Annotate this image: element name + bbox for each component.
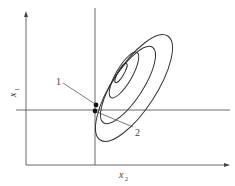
y-axis-label-sub: 1 <box>14 88 20 91</box>
contour-inner <box>104 48 144 101</box>
x-axis-label-main: x <box>118 169 124 180</box>
contour-ellipses <box>82 24 186 152</box>
x-axis-label: x 2 <box>118 169 128 182</box>
contour-diagram: 1 2 x 2 x 1 <box>0 0 235 186</box>
x-axis-arrow-icon <box>224 163 230 167</box>
y-axis-arrow-icon <box>24 11 28 17</box>
point-label-1: 1 <box>56 76 61 87</box>
y-axis-label-main: x <box>7 92 18 98</box>
contour-mid <box>91 39 165 131</box>
contour-outer <box>82 24 186 152</box>
point-2 <box>93 109 98 114</box>
point-label-2: 2 <box>135 127 140 138</box>
leader-line-2 <box>97 112 133 127</box>
x-axis-label-sub: 2 <box>125 176 128 182</box>
leader-line-1 <box>63 83 95 104</box>
points <box>93 103 99 114</box>
y-axis-label: x 1 <box>7 88 20 98</box>
axes <box>16 8 230 167</box>
